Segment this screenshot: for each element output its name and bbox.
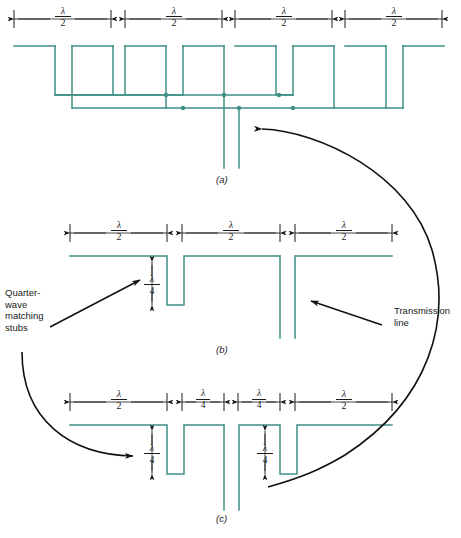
stub-dimension-label-c-left: λ 4 — [144, 442, 160, 465]
denominator: 2 — [166, 16, 182, 28]
callout-line-1: Quarter- — [5, 287, 71, 299]
denominator: 4 — [257, 453, 273, 465]
transmission-line-callout-leader-b — [311, 301, 382, 325]
callout-line-2: line — [394, 317, 460, 329]
denominator: 2 — [336, 399, 352, 411]
lambda-symbol: λ — [144, 442, 160, 453]
quarter-wave-callout-label: Quarter- wave matching stubs — [5, 287, 71, 333]
lambda-symbol: λ — [276, 5, 292, 16]
panel-label-c: (c) — [216, 513, 227, 524]
denominator: 4 — [144, 453, 160, 465]
lambda-symbol: λ — [166, 5, 182, 16]
junction-dot — [181, 106, 185, 110]
dimension-label-a2: λ 2 — [166, 5, 182, 28]
stub-dimension-label-b: λ 4 — [144, 273, 160, 296]
dimension-label-c3: λ 4 — [252, 388, 266, 411]
panel-c — [22, 352, 392, 510]
lambda-symbol: λ — [111, 219, 127, 230]
junction-dot — [277, 93, 281, 97]
figure-canvas — [0, 0, 461, 538]
lambda-symbol: λ — [252, 388, 266, 399]
denominator: 2 — [55, 16, 71, 28]
callout-line-3: matching — [5, 310, 71, 322]
panel-c-circuit — [70, 425, 392, 510]
denominator: 2 — [276, 16, 292, 28]
denominator: 4 — [252, 399, 266, 411]
panel-a-circuit — [14, 46, 444, 168]
figure-transmission-line-stubs: λ 2 λ 2 λ 2 λ 2 λ 2 λ 2 λ 2 λ 4 λ 2 λ 4 … — [0, 0, 461, 538]
stub-dimension-label-c-right: λ 4 — [257, 442, 273, 465]
denominator: 4 — [144, 284, 160, 296]
panel-a — [14, 10, 444, 168]
lambda-symbol: λ — [223, 219, 239, 230]
denominator: 4 — [196, 399, 210, 411]
dimension-label-b1: λ 2 — [111, 219, 127, 242]
dimension-label-c2: λ 4 — [196, 388, 210, 411]
dimension-label-c1: λ 2 — [111, 388, 127, 411]
dimension-label-b3: λ 2 — [336, 219, 352, 242]
lambda-symbol: λ — [144, 273, 160, 284]
dimension-label-a1: λ 2 — [55, 5, 71, 28]
lambda-symbol: λ — [55, 5, 71, 16]
denominator: 2 — [336, 230, 352, 242]
callout-line-4: stubs — [5, 322, 71, 334]
denominator: 2 — [386, 16, 402, 28]
dimension-label-b2: λ 2 — [223, 219, 239, 242]
panel-a-dimension-row — [14, 10, 442, 28]
callout-line-2: wave — [5, 299, 71, 311]
lambda-symbol: λ — [111, 388, 127, 399]
dimension-label-a4: λ 2 — [386, 5, 402, 28]
lambda-symbol: λ — [196, 388, 210, 399]
lambda-symbol: λ — [336, 219, 352, 230]
dimension-label-c4: λ 2 — [336, 388, 352, 411]
denominator: 2 — [223, 230, 239, 242]
panel-label-a: (a) — [216, 174, 228, 185]
junction-dot — [237, 106, 241, 110]
transmission-line-callout-label: Transmission line — [394, 305, 460, 328]
dimension-label-a3: λ 2 — [276, 5, 292, 28]
panel-b-circuit — [70, 256, 392, 338]
denominator: 2 — [111, 399, 127, 411]
lambda-symbol: λ — [336, 388, 352, 399]
lambda-symbol: λ — [257, 442, 273, 453]
junction-dot — [164, 93, 168, 97]
panel-label-b: (b) — [216, 344, 228, 355]
junction-dot — [222, 93, 226, 97]
denominator: 2 — [111, 230, 127, 242]
lambda-symbol: λ — [386, 5, 402, 16]
callout-line-1: Transmission — [394, 305, 460, 317]
junction-dot — [291, 106, 295, 110]
